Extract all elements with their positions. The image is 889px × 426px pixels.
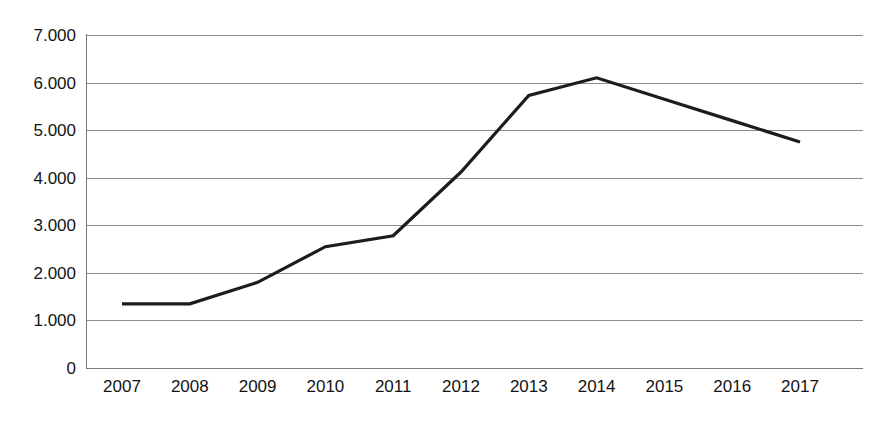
y-tick-label: 2.000 <box>33 264 76 283</box>
x-tick-label: 2009 <box>239 377 277 396</box>
x-tick-label: 2014 <box>578 377 616 396</box>
x-tick-label: 2007 <box>103 377 141 396</box>
y-tick-label: 5.000 <box>33 121 76 140</box>
x-tick-label: 2013 <box>510 377 548 396</box>
x-tick-label: 2017 <box>781 377 819 396</box>
y-tick-label: 7.000 <box>33 26 76 45</box>
x-tick-label: 2011 <box>375 377 412 396</box>
y-tick-label: 1.000 <box>33 311 76 330</box>
chart-background <box>0 0 889 426</box>
chart-canvas: 01.0002.0003.0004.0005.0006.0007.000 200… <box>0 0 889 426</box>
y-tick-label: 6.000 <box>33 74 76 93</box>
x-tick-label: 2012 <box>442 377 480 396</box>
x-tick-label: 2008 <box>171 377 209 396</box>
y-tick-label: 3.000 <box>33 216 76 235</box>
x-tick-label: 2015 <box>645 377 683 396</box>
y-tick-label: 4.000 <box>33 169 76 188</box>
x-tick-label: 2010 <box>306 377 344 396</box>
x-tick-label: 2016 <box>713 377 751 396</box>
line-chart: 01.0002.0003.0004.0005.0006.0007.000 200… <box>0 0 889 426</box>
y-tick-label: 0 <box>67 359 76 378</box>
